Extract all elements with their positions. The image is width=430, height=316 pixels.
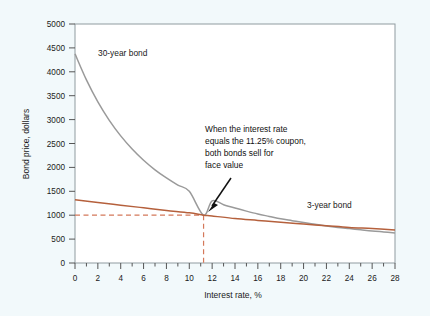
x-tick-label: 12: [208, 274, 218, 283]
annotation-line-3: both bonds sell for: [205, 148, 274, 158]
annotation-line-4: face value: [205, 160, 244, 170]
x-tick-label: 26: [368, 274, 378, 283]
x-tick-label: 22: [322, 274, 332, 283]
y-tick-label: 2000: [47, 163, 66, 172]
series-label-30-year-bond: 30-year bond: [98, 48, 148, 58]
y-tick-label: 4500: [47, 44, 66, 53]
x-tick-label: 6: [141, 274, 146, 283]
x-tick-label: 4: [118, 274, 123, 283]
x-tick-label: 0: [73, 274, 78, 283]
x-tick-label: 24: [345, 274, 355, 283]
y-tick-label: 3000: [47, 116, 66, 125]
x-tick-label: 8: [164, 274, 169, 283]
y-axis-title: Bond price, dollars: [21, 109, 31, 179]
y-tick-label: 3500: [47, 92, 66, 101]
x-tick-label: 10: [185, 274, 195, 283]
y-tick-label: 5000: [47, 20, 66, 29]
x-tick-label: 18: [276, 274, 286, 283]
x-tick-label: 28: [390, 274, 400, 283]
annotation-line-2: equals the 11.25% coupon,: [205, 136, 306, 146]
annotation-line-1: When the interest rate: [205, 124, 288, 134]
x-axis-title: Interest rate, %: [204, 290, 262, 300]
x-tick-label: 2: [96, 274, 101, 283]
y-tick-label: 1500: [47, 187, 66, 196]
x-tick-label: 20: [299, 274, 309, 283]
chart-figure: 0500100015002000250030003500400045005000…: [0, 0, 430, 316]
x-tick-label: 16: [253, 274, 263, 283]
y-tick-label: 0: [60, 259, 65, 268]
series-label-3-year-bond: 3-year bond: [307, 200, 352, 210]
y-tick-label: 4000: [47, 68, 66, 77]
bond-price-chart: 0500100015002000250030003500400045005000…: [0, 0, 430, 316]
x-axis-tick-labels: 0246810121416182022242628: [73, 274, 400, 283]
y-tick-label: 2500: [47, 140, 66, 149]
x-tick-label: 14: [230, 274, 240, 283]
y-tick-label: 1000: [47, 211, 66, 220]
y-tick-label: 500: [51, 235, 65, 244]
